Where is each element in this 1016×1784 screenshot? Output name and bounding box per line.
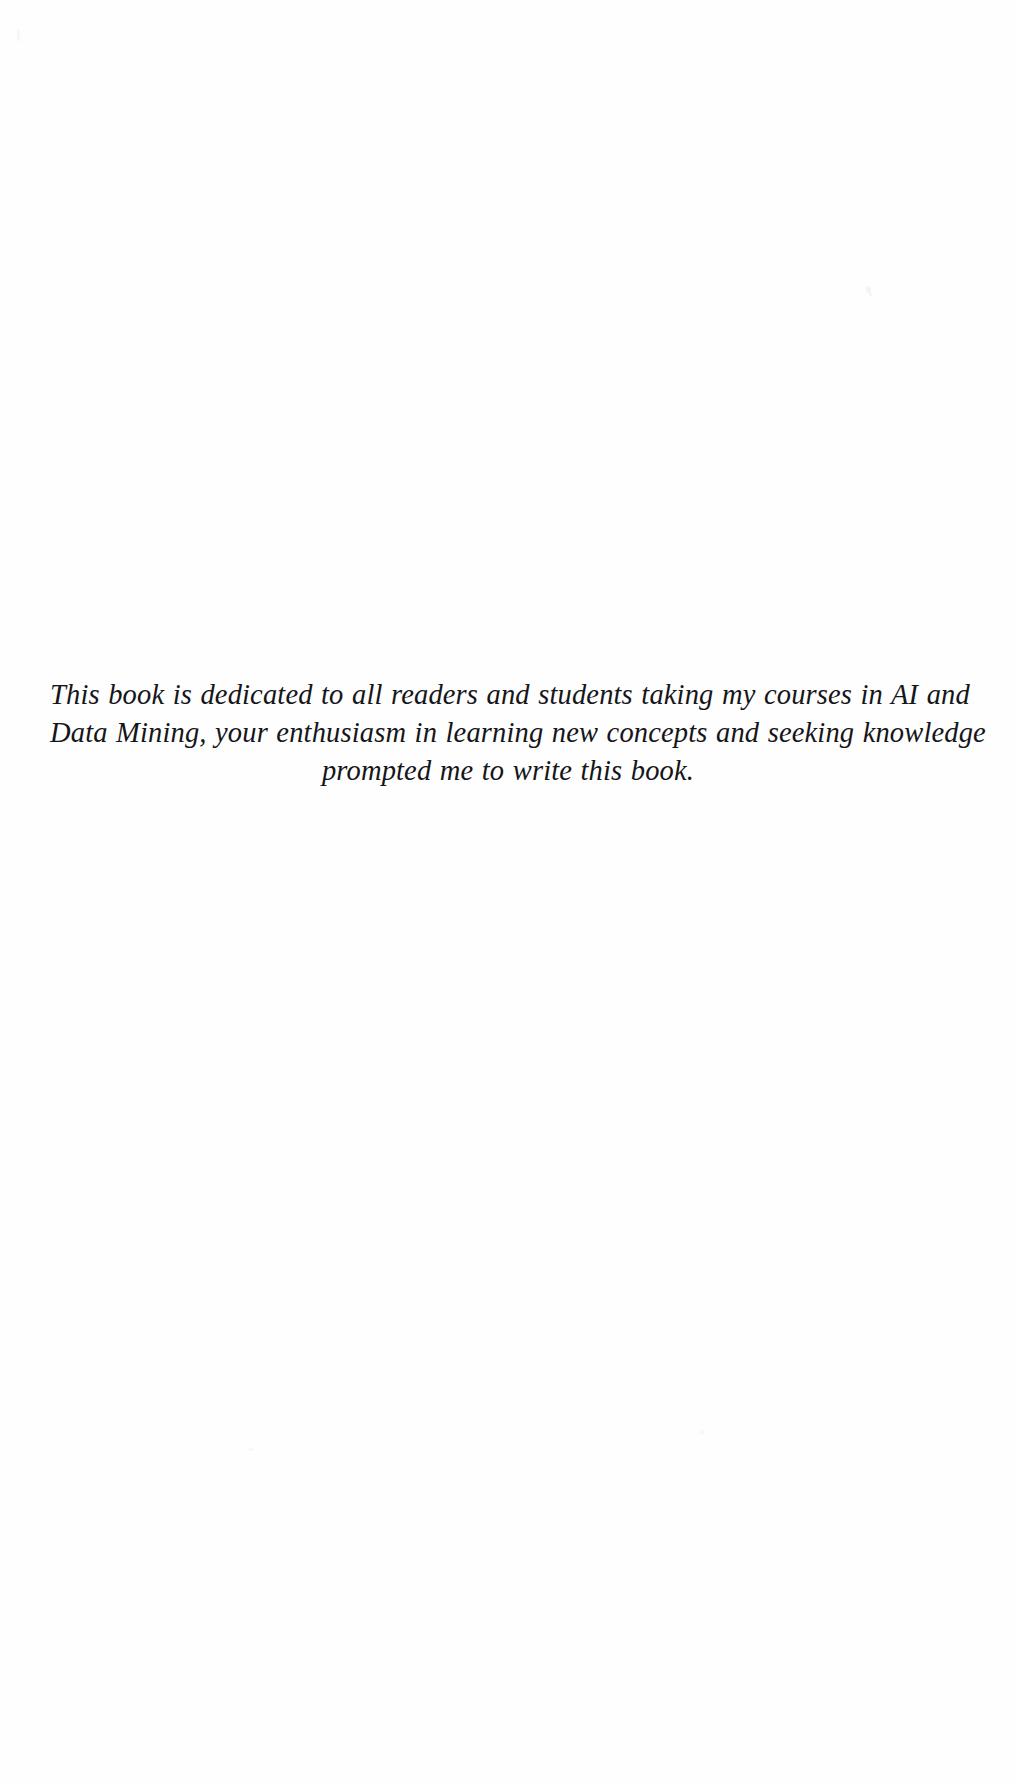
dedication-line: Data Mining, your enthusiasm in learning… — [50, 714, 966, 752]
dedication-line: prompted me to write this book. — [50, 752, 966, 790]
scan-artifact-speck — [17, 30, 20, 41]
scan-artifact-speck — [700, 1430, 705, 1435]
scan-artifact-speck — [866, 286, 871, 293]
scan-artifact-speck — [869, 292, 872, 296]
scan-artifact-speck — [248, 1448, 254, 1451]
dedication-line: This book is dedicated to all readers an… — [50, 676, 966, 714]
dedication-text-block: This book is dedicated to all readers an… — [50, 676, 966, 790]
book-page: This book is dedicated to all readers an… — [0, 0, 1016, 1784]
